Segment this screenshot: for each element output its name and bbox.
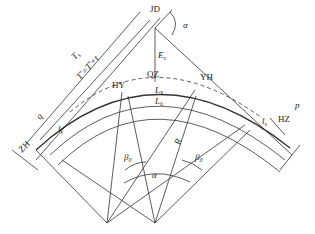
ly-label: LY (154, 85, 164, 96)
beta-right-label: β0 (194, 152, 202, 163)
qz-label: QZ (147, 69, 159, 79)
alpha-top-label: α (183, 20, 188, 30)
ls-left-label: ls (58, 124, 64, 135)
radius-r (155, 96, 196, 223)
left-tangent-line (36, 18, 160, 160)
hz-label: HZ (278, 114, 290, 124)
jd-label: JD (150, 4, 161, 14)
alpha-top-arc (170, 12, 176, 35)
radius-right (155, 130, 250, 223)
radius-center-left (128, 96, 155, 223)
p-label: p (294, 100, 300, 110)
lh-label: Lh (154, 96, 163, 107)
zh-tick (12, 150, 38, 170)
hy-label: HY (112, 80, 125, 90)
zh-label: ZH (16, 139, 32, 155)
alpha-center-arc (124, 174, 190, 183)
alpha-center-label: α (152, 170, 157, 180)
hz-tick (280, 145, 300, 170)
q-label: q (34, 111, 45, 121)
right-tangent-line (155, 28, 292, 155)
yh-label: YH (200, 72, 213, 82)
curve-diagram-svg: JD α Es QZ YH HY HZ ZH LY Lh Ts T'=T'+t … (0, 0, 315, 234)
ls-right-label: ls (262, 116, 268, 127)
r-label: R (172, 137, 183, 146)
es-label: Es (157, 50, 167, 61)
lh-dimension-arc (58, 119, 280, 172)
beta-left-label: β0 (123, 152, 131, 163)
ts-label: Ts (69, 49, 83, 62)
radius-zh (36, 150, 107, 223)
curve-diagram: JD α Es QZ YH HY HZ ZH LY Lh Ts T'=T'+t … (0, 0, 315, 234)
